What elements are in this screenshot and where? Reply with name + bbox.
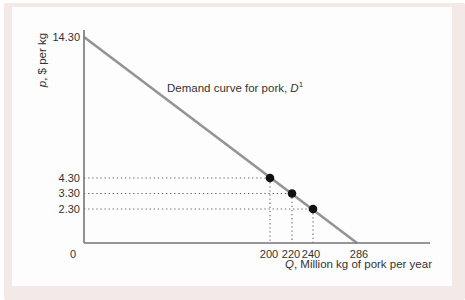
y-tick-2.30: 2.30 [38,203,80,216]
origin-label: 0 [66,248,80,261]
data-point-240-2.30 [309,205,318,214]
x-axis-title-text: , Million kg of pork per year [294,258,432,270]
y-tick-4.30: 4.30 [38,172,80,185]
x-axis-title: Q, Million kg of pork per year [230,258,432,271]
x-axis-symbol: Q [285,258,294,270]
y-axis-symbol: p [36,81,48,87]
demand-curve-label-text: Demand curve for pork, [167,82,290,94]
y-tick-3.30: 3.30 [38,187,80,200]
data-point-200-4.30 [266,174,275,183]
demand-curve-superscript: 1 [299,80,303,89]
figure-demand-curve-pork: 14.30 4.30 3.30 2.30 0 200 220 240 286 D… [0,0,465,300]
demand-curve-line [84,37,357,243]
demand-curve-label: Demand curve for pork, D1 [167,82,303,95]
y-axis-title: p, $ per kg [36,33,49,87]
demand-curve-symbol: D [290,82,298,94]
data-point-220-3.30 [288,189,297,198]
y-axis-title-text: , $ per kg [36,33,48,81]
